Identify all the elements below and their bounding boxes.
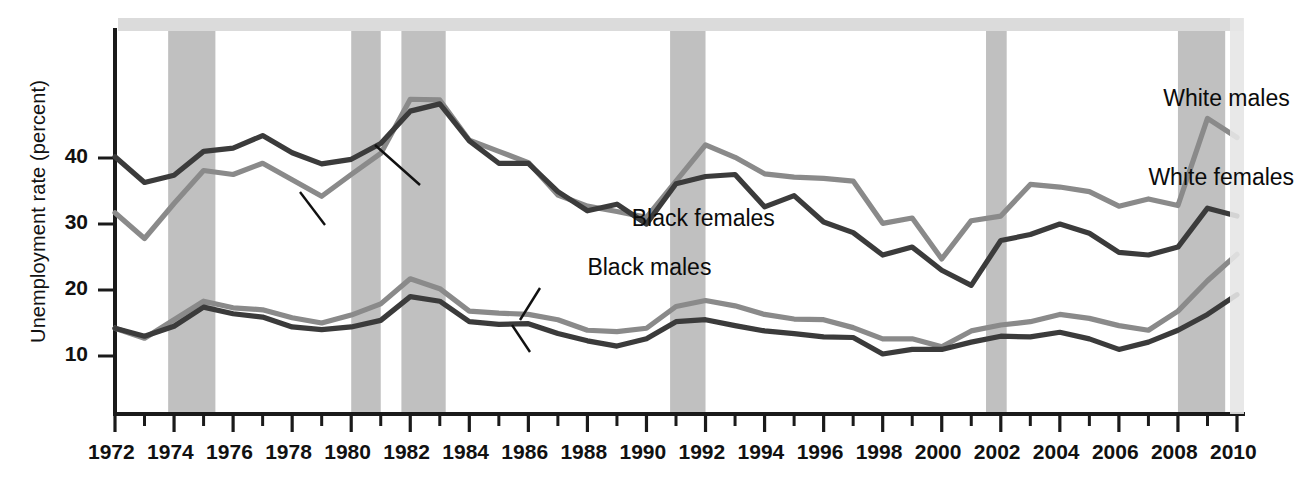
x-tick-label: 1982 [383,440,430,464]
x-tick-label: 1992 [679,440,726,464]
x-tick-label: 1976 [206,440,253,464]
annotation-black-males: Black males [587,254,711,281]
x-tick-label: 2010 [1210,440,1257,464]
x-tick-label: 1972 [88,440,135,464]
x-tick-label: 1974 [147,440,194,464]
recession-band [351,31,381,414]
y-tick-label: 20 [42,276,88,300]
y-tick-label: 30 [42,210,88,234]
x-tick-label: 1998 [856,440,903,464]
x-tick-label: 2006 [1092,440,1139,464]
x-tick-label: 1990 [619,440,666,464]
annotation-black-females: Black females [632,205,775,232]
x-tick-label: 1980 [324,440,371,464]
annotation-white-females: White females [1148,164,1294,191]
x-tick-label: 1986 [501,440,548,464]
x-tick-label: 1984 [442,440,489,464]
x-tick-label: 1978 [265,440,312,464]
y-tick-label: 10 [42,342,88,366]
recession-band [986,31,1007,414]
x-axis-ticks-group [115,414,1237,432]
x-tick-label: 1994 [738,440,785,464]
x-tick-label: 1988 [560,440,607,464]
y-tick-label: 40 [42,144,88,168]
x-tick-label: 1996 [797,440,844,464]
y-axis-ticks-group [98,158,115,356]
annotation-white-males: White males [1163,85,1290,112]
recession-band [401,31,445,414]
scan-top-strip [118,18,1243,31]
x-tick-label: 2008 [1151,440,1198,464]
x-tick-label: 2004 [1033,440,1080,464]
scan-right-strip [1230,18,1244,414]
recession-band [168,31,215,414]
annotation-leader-line [512,325,530,352]
x-tick-label: 2000 [915,440,962,464]
x-tick-label: 2002 [974,440,1021,464]
